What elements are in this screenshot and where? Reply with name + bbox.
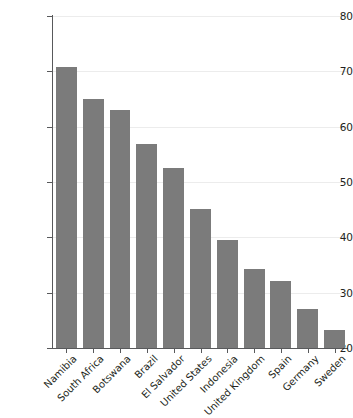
y-tick-mark-70	[47, 71, 52, 72]
y-tick-mark-80	[47, 16, 52, 17]
bars-group	[53, 16, 348, 348]
bar	[190, 209, 211, 348]
x-tick-mark	[281, 349, 282, 353]
y-tick-mark-60	[47, 127, 52, 128]
x-tick-mark	[227, 349, 228, 353]
bar	[217, 240, 238, 348]
x-tick-mark	[93, 349, 94, 353]
bar	[324, 330, 345, 348]
bar	[56, 67, 77, 348]
bar	[163, 168, 184, 348]
bar	[244, 269, 265, 348]
x-tick-mark	[120, 349, 121, 353]
y-tick-mark-30	[47, 293, 52, 294]
x-tick-mark	[201, 349, 202, 353]
x-tick-mark	[254, 349, 255, 353]
y-tick-mark-20	[47, 348, 52, 349]
x-tick-mark	[335, 349, 336, 353]
bar-chart: Gini coefficient (x100) 20304050607080 N…	[0, 0, 353, 418]
x-tick-mark	[66, 349, 67, 353]
x-tick-mark	[308, 349, 309, 353]
bar	[110, 110, 131, 348]
bar	[136, 144, 157, 348]
bar	[270, 281, 291, 348]
bar	[297, 309, 318, 348]
x-tick-mark	[147, 349, 148, 353]
bar	[83, 99, 104, 348]
x-tick-mark	[174, 349, 175, 353]
y-tick-mark-40	[47, 237, 52, 238]
y-tick-mark-50	[47, 182, 52, 183]
